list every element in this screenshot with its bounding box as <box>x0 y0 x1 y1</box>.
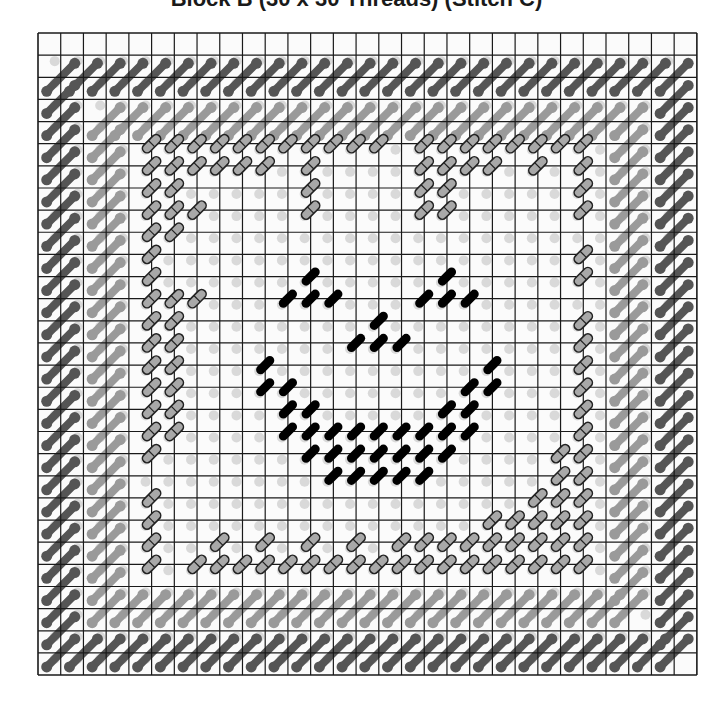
dark-border-stitch-dot <box>41 506 52 517</box>
light-border-stitch-dot <box>609 196 620 207</box>
dark-border-stitch-dot <box>160 58 171 69</box>
dark-border-stitch-dot <box>41 551 52 562</box>
intersection-dot <box>527 455 537 465</box>
intersection-dot <box>345 388 355 398</box>
light-border-stitch-dot <box>115 523 126 534</box>
light-border-stitch-dot <box>637 257 648 268</box>
dark-border-stitch-dot <box>655 219 666 230</box>
dark-border-stitch-dot <box>655 551 666 562</box>
intersection-dot <box>436 255 446 265</box>
light-border-stitch-dot <box>115 346 126 357</box>
light-border-stitch-dot <box>87 595 98 606</box>
dark-border-stitch-dot <box>69 368 80 379</box>
dark-border-stitch-dot <box>655 529 666 540</box>
light-border-stitch-dot <box>115 434 126 445</box>
intersection-dot <box>595 167 605 177</box>
intersection-dot <box>595 477 605 487</box>
intersection-dot <box>504 300 514 310</box>
intersection-dot <box>481 189 491 199</box>
dark-border-stitch-dot <box>69 501 80 512</box>
intersection-dot <box>231 211 241 221</box>
intersection-dot <box>300 322 310 332</box>
light-border-stitch-dot <box>609 551 620 562</box>
intersection-dot <box>345 366 355 376</box>
intersection-dot <box>459 366 469 376</box>
light-border-stitch-dot <box>87 506 98 517</box>
light-border-stitch-dot <box>319 589 330 600</box>
dark-border-stitch-dot <box>655 108 666 119</box>
light-border-stitch-dot <box>115 456 126 467</box>
dark-border-stitch-dot <box>228 633 239 644</box>
intersection-dot <box>459 499 469 509</box>
intersection-dot <box>254 322 264 332</box>
light-border-stitch-dot <box>87 174 98 185</box>
light-border-stitch-dot <box>564 617 575 628</box>
dark-border-stitch-dot <box>655 595 666 606</box>
dark-border-stitch-dot <box>455 58 466 69</box>
light-border-stitch-dot <box>228 589 239 600</box>
dark-border-stitch-dot <box>69 390 80 401</box>
intersection-dot <box>231 455 241 465</box>
light-border-stitch-dot <box>115 589 126 600</box>
dark-border-stitch-dot <box>69 456 80 467</box>
dark-border-stitch-dot <box>655 506 666 517</box>
dark-border-stitch-dot <box>683 368 694 379</box>
intersection-dot <box>527 300 537 310</box>
dark-border-stitch-dot <box>683 567 694 578</box>
dark-border-stitch-dot <box>655 418 666 429</box>
intersection-dot <box>413 255 423 265</box>
light-border-stitch-dot <box>609 484 620 495</box>
dark-border-stitch-dot <box>683 102 694 113</box>
dark-border-stitch-dot <box>609 661 620 672</box>
light-border-stitch-dot <box>87 617 98 628</box>
light-border-stitch-dot <box>87 551 98 562</box>
dark-border-stitch-dot <box>655 661 666 672</box>
intersection-dot <box>572 233 582 243</box>
light-border-stitch-dot <box>592 102 603 113</box>
intersection-dot <box>413 521 423 531</box>
dark-border-stitch-dot <box>268 661 279 672</box>
dark-border-stitch-dot <box>683 168 694 179</box>
dark-border-stitch-dot <box>41 484 52 495</box>
dark-border-stitch-dot <box>496 86 507 97</box>
intersection-dot <box>209 322 219 332</box>
intersection-dot <box>368 366 378 376</box>
light-border-stitch-dot <box>427 617 438 628</box>
intersection-dot <box>277 477 287 487</box>
intersection-dot <box>300 344 310 354</box>
dark-border-stitch-dot <box>615 58 626 69</box>
intersection-dot <box>300 366 310 376</box>
intersection-dot <box>413 233 423 243</box>
intersection-dot <box>186 255 196 265</box>
intersection-dot <box>550 255 560 265</box>
light-border-stitch-dot <box>115 213 126 224</box>
intersection-dot <box>231 543 241 553</box>
dark-border-stitch-dot <box>410 633 421 644</box>
intersection-dot <box>345 278 355 288</box>
intersection-dot <box>345 300 355 310</box>
dark-border-stitch-dot <box>473 661 484 672</box>
intersection-dot <box>504 167 514 177</box>
intersection-dot <box>209 477 219 487</box>
light-border-stitch-dot <box>365 589 376 600</box>
dark-border-stitch-dot <box>314 86 325 97</box>
dark-border-stitch-dot <box>155 661 166 672</box>
dark-border-stitch-dot <box>450 661 461 672</box>
dark-border-stitch-dot <box>69 191 80 202</box>
light-border-stitch-dot <box>637 456 648 467</box>
dark-border-stitch-dot <box>69 567 80 578</box>
light-border-stitch-dot <box>455 102 466 113</box>
dark-border-stitch-dot <box>655 307 666 318</box>
dark-border-stitch-dot <box>64 661 75 672</box>
light-border-stitch-dot <box>609 617 620 628</box>
dark-border-stitch-dot <box>683 390 694 401</box>
dark-border-stitch-dot <box>137 633 148 644</box>
light-border-stitch-dot <box>251 589 262 600</box>
light-border-stitch-dot <box>87 418 98 429</box>
intersection-dot <box>231 344 241 354</box>
intersection-dot <box>209 278 219 288</box>
light-border-stitch-dot <box>274 589 285 600</box>
light-border-stitch-dot <box>296 102 307 113</box>
intersection-dot <box>391 388 401 398</box>
light-border-stitch-dot <box>546 589 557 600</box>
